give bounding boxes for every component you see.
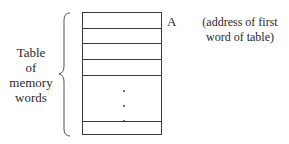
row-divider xyxy=(83,43,161,44)
row-divider xyxy=(83,121,161,122)
label-line: of xyxy=(2,60,60,75)
label-line: words xyxy=(2,90,60,105)
memory-table xyxy=(82,12,162,135)
brace-icon xyxy=(58,12,74,138)
row-divider xyxy=(83,59,161,60)
row-divider xyxy=(83,75,161,76)
row-divider xyxy=(83,28,161,29)
table-of-memory-words-label: Table of memory words xyxy=(2,45,60,105)
ellipsis-dot xyxy=(123,90,125,92)
address-note: (address of first word of table) xyxy=(192,15,288,45)
note-line: (address of first xyxy=(192,15,288,30)
ellipsis-dot xyxy=(123,105,125,107)
pointer-label-a: A xyxy=(167,14,176,30)
label-line: Table xyxy=(2,45,60,60)
note-line: word of table) xyxy=(192,30,288,45)
label-line: memory xyxy=(2,75,60,90)
